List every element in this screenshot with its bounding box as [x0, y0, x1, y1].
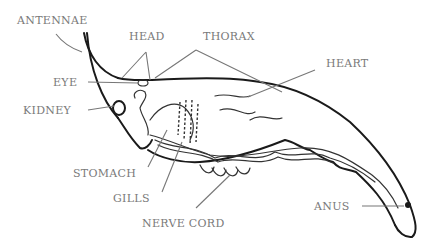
- kidney-shape: [113, 101, 125, 115]
- label-gills: GILLS: [113, 193, 150, 204]
- stomach-shape: [150, 104, 193, 140]
- nerve-cord-leader: [196, 175, 230, 208]
- label-eye: EYE: [53, 77, 77, 88]
- label-kidney: KIDNEY: [23, 105, 71, 116]
- head-underside: [118, 118, 152, 148]
- anatomy-diagram: ANTENNAE HEAD THORAX HEART EYE KIDNEY ST…: [0, 0, 439, 251]
- label-anus: ANUS: [314, 201, 350, 212]
- heart-leader: [248, 70, 315, 97]
- eye-leader: [88, 82, 138, 83]
- antennae-leader: [56, 34, 82, 52]
- label-stomach: STOMACH: [73, 168, 136, 179]
- label-heart: HEART: [326, 58, 369, 69]
- label-thorax: THORAX: [203, 31, 255, 42]
- brain-shape: [134, 90, 148, 135]
- label-head: HEAD: [129, 31, 165, 42]
- thorax-leader: [155, 50, 282, 92]
- label-antennae: ANTENNAE: [17, 15, 88, 26]
- head-leader: [122, 52, 150, 80]
- anus-dot: [405, 202, 411, 208]
- label-nerve-cord: NERVE CORD: [142, 218, 225, 229]
